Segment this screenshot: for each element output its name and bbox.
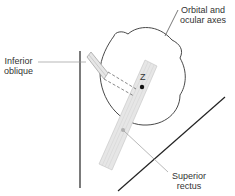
- center-of-rotation-dot: [140, 85, 144, 89]
- inferior-oblique-label: Inferior oblique: [4, 56, 33, 76]
- center-point-label: Z: [140, 72, 146, 82]
- orbital-axis-line: [165, 10, 178, 36]
- orbital-axes-label: Orbital and ocular axes: [180, 5, 226, 25]
- superior-rectus-label: Superior rectus: [172, 171, 206, 191]
- eye-muscle-diagram: [0, 0, 235, 196]
